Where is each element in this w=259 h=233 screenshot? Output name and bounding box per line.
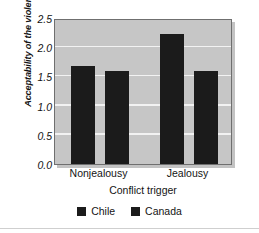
y-axis-tick-labels: 0.00.51.01.52.02.5 bbox=[16, 14, 52, 166]
y-tick-label: 2.0 bbox=[16, 42, 52, 54]
y-tick-label: 2.5 bbox=[16, 13, 52, 25]
y-tick-label: 0.5 bbox=[16, 130, 52, 142]
legend-entry: Chile bbox=[77, 205, 115, 217]
bar bbox=[105, 71, 129, 164]
legend-swatch-icon bbox=[77, 207, 86, 216]
x-tick-label: Jealousy bbox=[167, 167, 208, 179]
x-axis-title: Conflict trigger bbox=[54, 184, 232, 196]
bar bbox=[160, 34, 184, 164]
legend-label: Chile bbox=[91, 205, 115, 217]
footer-divider bbox=[0, 228, 259, 229]
y-tick-label: 1.5 bbox=[16, 71, 52, 83]
chart-figure: Acceptability of the violence 0.00.51.01… bbox=[0, 0, 259, 233]
chart-legend: ChileCanada bbox=[0, 205, 259, 217]
y-tick-label: 0.0 bbox=[16, 159, 52, 171]
y-tick-label: 1.0 bbox=[16, 101, 52, 113]
bar bbox=[194, 71, 218, 164]
x-axis-tick-labels: NonjealousyJealousy bbox=[54, 167, 232, 183]
legend-label: Canada bbox=[145, 205, 182, 217]
legend-swatch-icon bbox=[131, 207, 140, 216]
x-tick-label: Nonjealousy bbox=[70, 167, 128, 179]
legend-entry: Canada bbox=[131, 205, 182, 217]
plot-area bbox=[54, 19, 232, 165]
gridline bbox=[55, 46, 231, 48]
bar bbox=[71, 66, 95, 164]
